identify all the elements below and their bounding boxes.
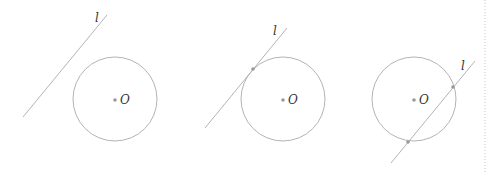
- intersection-points: [251, 67, 255, 71]
- center-label: O: [288, 93, 298, 107]
- line-label: l: [95, 11, 99, 25]
- figure-intersecting: O l: [372, 57, 475, 163]
- center-point: [281, 98, 285, 102]
- center-label: O: [120, 93, 130, 107]
- intersection-point: [451, 85, 455, 89]
- line-l: [391, 61, 475, 163]
- center-point: [412, 98, 416, 102]
- center-label: O: [419, 93, 429, 107]
- diagram-canvas: O l O l O l: [0, 0, 494, 172]
- intersection-point: [251, 67, 255, 71]
- line-label: l: [461, 59, 465, 73]
- intersection-point: [406, 140, 410, 144]
- figure-separate: O l: [23, 11, 157, 141]
- line-l: [205, 28, 287, 128]
- figure-tangent: O l: [205, 24, 325, 141]
- line-l: [23, 15, 107, 117]
- center-point: [113, 98, 117, 102]
- line-label: l: [273, 24, 277, 38]
